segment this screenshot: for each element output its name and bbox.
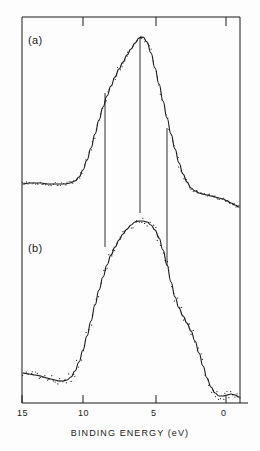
data-point [88, 329, 89, 330]
data-point [74, 376, 75, 377]
data-point [81, 173, 82, 174]
data-point [137, 40, 138, 41]
data-point [91, 149, 92, 150]
data-point [94, 304, 95, 305]
data-point [44, 375, 45, 376]
data-point [92, 314, 93, 315]
data-point [177, 297, 178, 298]
data-point [217, 199, 218, 200]
data-point [133, 45, 134, 46]
data-point [226, 391, 227, 392]
data-point [178, 167, 179, 168]
data-point [91, 324, 92, 325]
data-point [208, 194, 209, 195]
data-point [84, 164, 85, 165]
data-point [156, 71, 157, 72]
data-point [224, 393, 225, 394]
data-point [180, 170, 181, 171]
data-point [80, 172, 81, 173]
data-point [39, 378, 40, 379]
data-point [105, 269, 106, 270]
curve-path-b [23, 221, 239, 397]
data-point [158, 84, 159, 85]
data-point [219, 199, 220, 200]
data-point [174, 300, 175, 301]
data-point [94, 138, 95, 139]
data-point [196, 190, 197, 191]
data-point [104, 101, 105, 102]
data-point [101, 283, 102, 284]
data-point [147, 225, 148, 226]
data-point [108, 91, 109, 92]
data-point [83, 350, 84, 351]
data-point [134, 43, 135, 44]
data-point [238, 205, 239, 206]
data-point [29, 182, 30, 183]
x-tick-label-10: 10 [78, 408, 89, 418]
data-point [157, 77, 158, 78]
data-point [73, 180, 74, 181]
data-point [197, 191, 198, 192]
data-point [182, 173, 183, 174]
data-point [152, 57, 153, 58]
data-point [167, 118, 168, 119]
data-point [218, 399, 219, 400]
panel-label-b: (b) [28, 242, 43, 254]
data-point [61, 182, 62, 183]
data-point [204, 193, 205, 194]
data-point [114, 250, 115, 251]
data-point [45, 184, 46, 185]
data-point [70, 181, 71, 182]
x-tick-label-5: 5 [151, 408, 157, 418]
data-point [214, 196, 215, 197]
data-point [232, 394, 233, 395]
data-point [50, 184, 51, 185]
data-point [161, 99, 162, 100]
data-point [187, 324, 188, 325]
data-point [205, 375, 206, 376]
data-point [202, 359, 203, 360]
data-point [189, 187, 190, 188]
data-point [198, 347, 199, 348]
data-point [209, 194, 210, 195]
data-point [173, 293, 174, 294]
marker-lines [105, 37, 167, 266]
data-point [228, 200, 229, 201]
data-point [181, 307, 182, 308]
data-point [69, 181, 70, 182]
data-point [32, 371, 33, 372]
data-point [236, 393, 237, 394]
data-point [28, 373, 29, 374]
curve-path-a [23, 37, 239, 207]
data-point [57, 383, 58, 384]
data-point [126, 229, 127, 230]
data-point [112, 250, 113, 251]
data-point [194, 190, 195, 191]
data-point [207, 379, 208, 380]
data-point [129, 226, 130, 227]
data-point [136, 220, 137, 221]
data-point [124, 230, 125, 231]
data-point [223, 198, 224, 199]
data-point [92, 141, 93, 142]
data-point [79, 178, 80, 179]
data-point [122, 63, 123, 64]
data-point [97, 125, 98, 126]
x-tick-label-0: 0 [221, 408, 227, 418]
data-points-a [22, 36, 239, 208]
data-point [48, 185, 49, 186]
data-point [119, 239, 120, 240]
data-point [239, 397, 240, 398]
spectrum-curve-b [23, 221, 239, 397]
data-point [230, 391, 231, 392]
data-point [164, 260, 165, 261]
data-point [127, 56, 128, 57]
data-point [172, 141, 173, 142]
data-point [37, 184, 38, 185]
data-point [141, 222, 142, 223]
data-point [144, 41, 145, 42]
data-point [197, 350, 198, 351]
data-point [158, 236, 159, 237]
data-point [76, 180, 77, 181]
data-point [234, 203, 235, 204]
